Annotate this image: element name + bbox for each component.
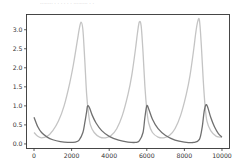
- y-tick-label: 2.5: [13, 45, 23, 52]
- y-tick-label: 1.0: [13, 102, 23, 109]
- y-tick-label: 0.0: [13, 140, 23, 147]
- y-axis-ticks: 0.00.51.01.52.02.53.0: [13, 26, 27, 147]
- x-tick-label: 6000: [139, 152, 155, 159]
- x-tick-label: 10000: [212, 152, 232, 159]
- y-tick-label: 2.0: [13, 64, 23, 71]
- x-tick-label: 8000: [177, 152, 193, 159]
- plot-frame: [27, 15, 230, 149]
- y-tick-label: 3.0: [13, 26, 23, 33]
- series-layer: [34, 19, 222, 143]
- y-tick-label: 0.5: [13, 121, 23, 128]
- y-tick-label: 1.5: [13, 83, 23, 90]
- x-axis-ticks: 0200040006000800010000: [32, 149, 232, 160]
- x-tick-label: 0: [32, 152, 36, 159]
- x-tick-label: 4000: [101, 152, 117, 159]
- line-chart: 0200040006000800010000 0.00.51.01.52.02.…: [0, 0, 239, 168]
- x-tick-label: 2000: [64, 152, 80, 159]
- series-light-line: [34, 19, 222, 138]
